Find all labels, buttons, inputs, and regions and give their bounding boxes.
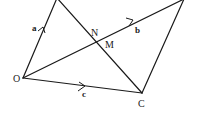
point-label-M: M	[105, 39, 114, 50]
segment-AC	[57, 0, 142, 93]
vector-label-b: b	[135, 25, 140, 35]
point-label-C: C	[138, 98, 145, 109]
vector-label-c: c	[82, 89, 86, 99]
point-label-N: N	[91, 27, 98, 38]
point-label-O: O	[13, 73, 20, 84]
segment-OB	[23, 0, 184, 78]
vector-diagram: O C N M a b c	[0, 0, 200, 114]
segment-BC	[142, 0, 184, 93]
vector-label-a: a	[32, 23, 37, 33]
segment-OA	[23, 0, 57, 78]
